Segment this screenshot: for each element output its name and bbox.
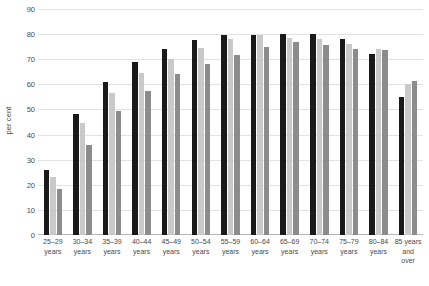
- y-axis-tick: 70: [27, 55, 35, 64]
- bar-series-3: [175, 74, 181, 235]
- bar-series-2: [257, 35, 263, 235]
- bar-series-1: [369, 54, 375, 235]
- bar-cluster: [364, 9, 394, 235]
- bar-series-3: [57, 189, 63, 235]
- bar-series-1: [162, 49, 168, 235]
- bar-series-3: [116, 111, 122, 235]
- bar-series-1: [251, 35, 257, 235]
- y-axis-tick-labels: 9080706050403020100: [14, 0, 38, 240]
- bar-series-1: [310, 34, 316, 235]
- y-axis-tick: 90: [27, 5, 35, 14]
- bar-series-2: [376, 49, 382, 235]
- bar-series-1: [192, 40, 198, 235]
- bar-series-3: [86, 145, 92, 235]
- y-axis-tick: 80: [27, 30, 35, 39]
- bar-cluster: [97, 9, 127, 235]
- bar-series-2: [346, 44, 352, 235]
- bar-cluster: [393, 9, 423, 235]
- bar-cluster: [334, 9, 364, 235]
- bar-series-1: [44, 170, 50, 235]
- bar-series-2: [168, 59, 174, 235]
- bar-cluster: [304, 9, 334, 235]
- bar-series-3: [145, 91, 151, 235]
- bar-series-2: [198, 48, 204, 235]
- bar-series-1: [103, 82, 109, 235]
- bar-cluster: [186, 9, 216, 235]
- x-axis-tick: 75–79 years: [334, 237, 364, 266]
- bar-series-2: [109, 93, 115, 235]
- bars-layer: [38, 9, 423, 235]
- x-axis-tick: 85 years and over: [393, 237, 423, 266]
- bar-series-3: [323, 45, 329, 235]
- x-axis-tick: 50–54 years: [186, 237, 216, 266]
- bar-series-2: [139, 73, 145, 235]
- bar-series-1: [73, 114, 79, 235]
- x-axis-tick: 45–49 years: [156, 237, 186, 266]
- x-axis-tick: 80–84 years: [364, 237, 394, 266]
- bar-series-3: [205, 64, 211, 235]
- bar-series-3: [353, 49, 359, 235]
- bar-chart: per cent 9080706050403020100 25–29 years…: [0, 0, 429, 286]
- x-axis-tick: 35–39 years: [97, 237, 127, 266]
- bar-cluster: [275, 9, 305, 235]
- x-axis-tick-labels: 25–29 years30–34 years35–39 years40–44 y…: [38, 237, 423, 266]
- bar-series-3: [293, 42, 299, 235]
- x-axis-tick: 70–74 years: [304, 237, 334, 266]
- x-axis-tick: 60–64 years: [245, 237, 275, 266]
- plot-area: [38, 9, 423, 235]
- bar-series-1: [280, 34, 286, 235]
- y-axis-title-label: per cent: [5, 106, 14, 134]
- bar-series-1: [221, 35, 227, 235]
- y-axis-tick: 30: [27, 155, 35, 164]
- y-axis-tick: 20: [27, 180, 35, 189]
- bar-series-3: [412, 81, 418, 235]
- bar-series-2: [228, 39, 234, 235]
- bar-series-2: [317, 39, 323, 235]
- x-axis-tick: 65–69 years: [275, 237, 305, 266]
- x-axis-tick: 30–34 years: [68, 237, 98, 266]
- bar-series-2: [80, 123, 86, 235]
- y-axis-tick: 60: [27, 80, 35, 89]
- y-axis-tick: 0: [31, 231, 35, 240]
- bar-cluster: [245, 9, 275, 235]
- x-axis-tick: 40–44 years: [127, 237, 157, 266]
- y-axis-tick: 40: [27, 130, 35, 139]
- x-axis-tick: 25–29 years: [38, 237, 68, 266]
- bar-cluster: [156, 9, 186, 235]
- bar-series-3: [382, 50, 388, 235]
- x-axis-tick: 55–59 years: [216, 237, 246, 266]
- bar-cluster: [127, 9, 157, 235]
- bar-series-2: [405, 84, 411, 235]
- y-axis-tick: 10: [27, 205, 35, 214]
- bar-series-1: [340, 39, 346, 235]
- bar-series-1: [132, 62, 138, 235]
- bar-series-2: [287, 38, 293, 235]
- bar-series-3: [234, 55, 240, 235]
- bar-cluster: [68, 9, 98, 235]
- bar-cluster: [216, 9, 246, 235]
- bar-cluster: [38, 9, 68, 235]
- y-axis-tick: 50: [27, 105, 35, 114]
- bar-series-1: [399, 97, 405, 235]
- bar-series-3: [264, 47, 270, 235]
- bar-series-2: [50, 177, 56, 235]
